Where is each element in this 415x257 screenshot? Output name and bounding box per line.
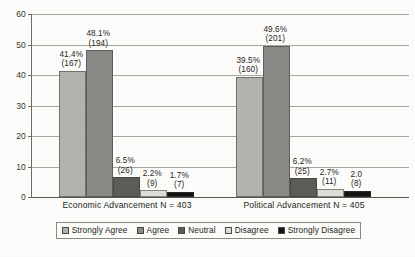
legend-swatch-icon <box>62 227 69 234</box>
bar <box>86 50 113 197</box>
y-axis-tick-label: 60 <box>16 10 26 19</box>
legend-item[interactable]: Agree <box>137 226 170 235</box>
y-axis-tick-label: 30 <box>16 101 26 110</box>
y-tick-mark-0 <box>28 197 32 198</box>
legend-item[interactable]: Neutral <box>178 226 215 235</box>
bar-chart: 0102030405060 41.4%(167)48.1%(194)6.5%(2… <box>0 0 415 257</box>
legend-swatch-icon <box>278 227 285 234</box>
bar <box>263 46 290 197</box>
bar-value-label: 6.2%(25) <box>293 157 312 176</box>
legend-swatch-icon <box>178 227 185 234</box>
legend-label: Strongly Disagree <box>288 226 356 235</box>
bar-value-label: 41.4%(167) <box>59 50 83 69</box>
bar <box>236 77 263 197</box>
y-axis-tick-label: 40 <box>16 71 26 80</box>
chart-legend: Strongly AgreeAgreeNeutralDisagreeStrong… <box>56 222 361 239</box>
bar-percent-label: 2.2% <box>143 169 162 179</box>
legend-swatch-icon <box>137 227 144 234</box>
bar-count-label: (167) <box>59 59 83 69</box>
bar-count-label: (194) <box>86 39 110 49</box>
bar-count-label: (25) <box>293 167 312 177</box>
legend-item[interactable]: Strongly Disagree <box>278 226 356 235</box>
gridline-0 <box>32 197 409 198</box>
x-axis-category-label: Political Advancement N = 405 <box>243 199 364 211</box>
bar <box>113 177 140 197</box>
legend-label: Agree <box>147 226 170 235</box>
y-axis-tick-label: 0 <box>21 193 26 202</box>
bar <box>167 192 194 197</box>
bar-count-label: (26) <box>116 166 135 176</box>
legend-swatch-icon <box>225 227 232 234</box>
y-axis-tick-label: 20 <box>16 132 26 141</box>
bar-value-label: 39.5%(160) <box>236 56 260 75</box>
bar-percent-label: 39.5% <box>236 56 260 66</box>
x-axis-category-label: Economic Advancement N = 403 <box>62 199 191 211</box>
bar-value-label: 2.7%(11) <box>320 168 339 187</box>
bar <box>344 191 371 197</box>
bar-percent-label: 2.0 <box>350 170 362 180</box>
legend-label: Disagree <box>235 226 269 235</box>
bar-count-label: (11) <box>320 177 339 187</box>
y-axis: 0102030405060 <box>0 0 30 215</box>
bar-percent-label: 6.2% <box>293 157 312 167</box>
bar <box>140 190 167 197</box>
bar-count-label: (7) <box>170 180 189 190</box>
bar-value-label: 6.5%(26) <box>116 156 135 175</box>
bar-percent-label: 41.4% <box>59 50 83 60</box>
bar-value-label: 48.1%(194) <box>86 29 110 48</box>
bar-percent-label: 6.5% <box>116 156 135 166</box>
plot-wrapper: 0102030405060 41.4%(167)48.1%(194)6.5%(2… <box>0 0 415 215</box>
y-axis-tick-label: 50 <box>16 40 26 49</box>
legend-label: Strongly Agree <box>72 226 128 235</box>
bar <box>290 178 317 197</box>
bar-percent-label: 1.7% <box>170 171 189 181</box>
bar-count-label: (160) <box>236 65 260 75</box>
legend-item[interactable]: Disagree <box>225 226 269 235</box>
bar <box>317 189 344 197</box>
legend-label: Neutral <box>188 226 215 235</box>
bar-count-label: (201) <box>263 34 287 44</box>
legend-item[interactable]: Strongly Agree <box>62 226 128 235</box>
bar-value-label: 2.0(8) <box>350 170 362 189</box>
bar-value-label: 1.7%(7) <box>170 171 189 190</box>
bar-percent-label: 2.7% <box>320 168 339 178</box>
bar-count-label: (9) <box>143 179 162 189</box>
y-axis-tick-label: 10 <box>16 162 26 171</box>
bar <box>59 71 86 197</box>
bar-count-label: (8) <box>350 179 362 189</box>
bar-percent-label: 49.6% <box>263 25 287 35</box>
bar-value-label: 2.2%(9) <box>143 169 162 188</box>
x-axis-category-labels: Economic Advancement N = 403Political Ad… <box>31 199 408 215</box>
bar-percent-label: 48.1% <box>86 29 110 39</box>
bar-value-label: 49.6%(201) <box>263 25 287 44</box>
